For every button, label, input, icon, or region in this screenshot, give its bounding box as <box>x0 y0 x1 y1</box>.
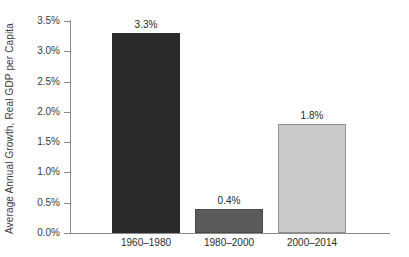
y-axis-tick-label: 1.5% <box>16 137 60 147</box>
plot-area: 3.3%0.4%1.8% <box>70 21 390 233</box>
bar-chart: Average Annual Growth, Real GDP per Capi… <box>0 0 409 257</box>
y-axis-tick-label: 1.0% <box>16 167 60 177</box>
bar-2000–2014[interactable] <box>278 124 346 233</box>
x-axis-line <box>70 233 390 234</box>
bar-1980–2000[interactable] <box>195 209 263 233</box>
y-axis-title: Average Annual Growth, Real GDP per Capi… <box>0 0 18 257</box>
x-axis-label-2000–2014: 2000–2014 <box>262 237 362 248</box>
y-axis-tick <box>64 233 70 234</box>
bar-value-label: 0.4% <box>195 195 263 206</box>
y-axis-tick-label: 2.5% <box>16 77 60 87</box>
y-axis-tick-label: 3.0% <box>16 46 60 56</box>
bar-1960–1980[interactable] <box>112 33 180 233</box>
y-axis-tick-label: 0.5% <box>16 198 60 208</box>
bar-value-label: 1.8% <box>278 110 346 121</box>
y-axis-tick-label: 3.5% <box>16 16 60 26</box>
bar-value-label: 3.3% <box>112 19 180 30</box>
y-axis-tick-label: 0.0% <box>16 228 60 238</box>
y-axis-tick-label: 2.0% <box>16 107 60 117</box>
